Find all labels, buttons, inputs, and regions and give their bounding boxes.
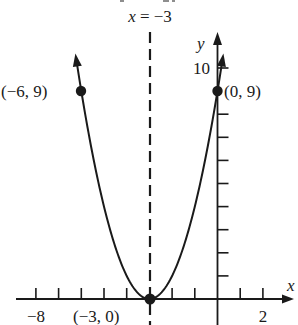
parabola-chart: x = −3 (−6, 9) (0, 9) (−3, 0) y x 10 −8 … — [0, 0, 298, 325]
x-tick-label-2: 2 — [259, 307, 268, 325]
point-right-label: (0, 9) — [224, 82, 261, 101]
curve-arrow-left-icon — [73, 54, 82, 68]
x-axis-label: x — [286, 276, 295, 295]
point-vertex — [145, 294, 156, 305]
x-tick-label-neg8: −8 — [27, 307, 45, 325]
clipped-caption — [120, 0, 175, 2]
point-right — [212, 86, 222, 96]
point-left-label: (−6, 9) — [1, 82, 47, 101]
x-axis-arrow-icon — [282, 295, 294, 304]
y-axis-arrow-icon — [213, 32, 222, 45]
y-tick-label-10: 10 — [193, 59, 210, 78]
point-vertex-label: (−3, 0) — [73, 307, 119, 325]
point-left — [76, 86, 86, 96]
y-axis-label: y — [195, 34, 205, 53]
axis-of-symmetry-label: x = −3 — [127, 7, 172, 26]
